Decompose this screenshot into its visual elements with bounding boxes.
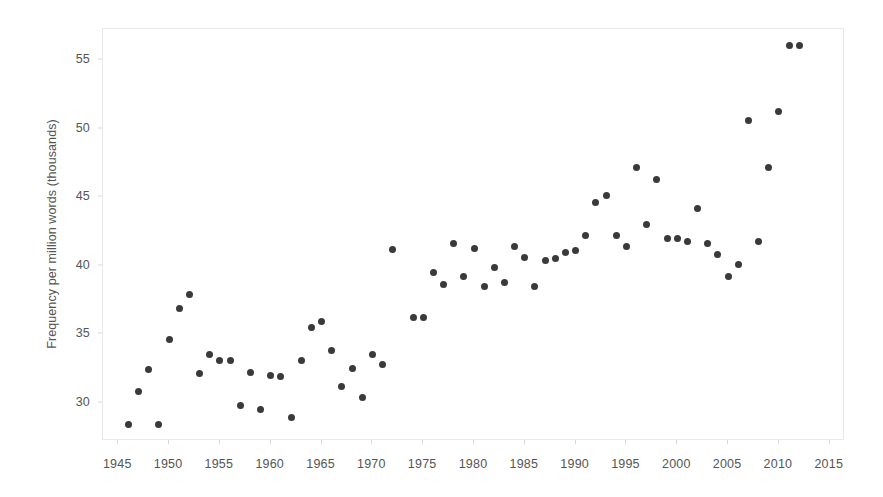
scatter-point <box>613 232 620 239</box>
scatter-point <box>196 370 203 377</box>
x-tick-mark <box>270 440 271 444</box>
scatter-point <box>379 361 386 368</box>
scatter-point <box>674 235 681 242</box>
scatter-point <box>420 314 427 321</box>
scatter-point <box>542 257 549 264</box>
scatter-point <box>735 261 742 268</box>
scatter-point <box>725 273 732 280</box>
scatter-point <box>592 199 599 206</box>
scatter-point <box>237 402 244 409</box>
scatter-point <box>440 281 447 288</box>
x-axis: 1945195019551960196519701975198019851990… <box>0 440 883 497</box>
x-tick-mark <box>524 440 525 444</box>
x-tick-mark <box>727 440 728 444</box>
scatter-point <box>572 247 579 254</box>
x-tick-mark <box>422 440 423 444</box>
x-tick-mark <box>778 440 779 444</box>
scatter-point <box>257 406 264 413</box>
scatter-point <box>186 291 193 298</box>
scatter-point <box>338 383 345 390</box>
scatter-point <box>328 347 335 354</box>
x-tick-mark <box>575 440 576 444</box>
scatter-point <box>450 240 457 247</box>
scatter-point <box>216 357 223 364</box>
scatter-point <box>775 108 782 115</box>
x-tick-label: 1980 <box>459 457 488 471</box>
scatter-point <box>318 318 325 325</box>
x-tick-mark <box>168 440 169 444</box>
scatter-point <box>359 394 366 401</box>
x-tick-label: 1970 <box>357 457 386 471</box>
x-tick-label: 1955 <box>205 457 234 471</box>
scatter-point <box>430 269 437 276</box>
scatter-points-layer <box>103 29 843 439</box>
x-tick-label: 1950 <box>154 457 183 471</box>
scatter-point <box>206 351 213 358</box>
x-tick-label: 2010 <box>764 457 793 471</box>
scatter-point <box>491 264 498 271</box>
scatter-point <box>664 235 671 242</box>
y-tick-label: 30 <box>76 395 90 409</box>
x-tick-label: 2000 <box>662 457 691 471</box>
scatter-point <box>308 324 315 331</box>
plot-area <box>102 28 844 440</box>
scatter-point <box>755 238 762 245</box>
scatter-point <box>765 164 772 171</box>
scatter-point <box>531 283 538 290</box>
scatter-point <box>582 232 589 239</box>
scatter-point <box>155 421 162 428</box>
y-tick-label: 55 <box>76 52 90 66</box>
scatter-point <box>369 351 376 358</box>
scatter-point <box>796 42 803 49</box>
scatter-point <box>227 357 234 364</box>
scatter-point <box>349 365 356 372</box>
scatter-chart-figure: Frequency per million words (thousands) … <box>0 0 883 497</box>
scatter-point <box>176 305 183 312</box>
scatter-point <box>603 192 610 199</box>
x-tick-mark <box>829 440 830 444</box>
y-tick-label: 40 <box>76 258 90 272</box>
scatter-point <box>471 245 478 252</box>
x-tick-label: 1960 <box>255 457 284 471</box>
scatter-point <box>552 255 559 262</box>
x-tick-mark <box>321 440 322 444</box>
scatter-point <box>501 279 508 286</box>
x-tick-mark <box>473 440 474 444</box>
scatter-point <box>694 205 701 212</box>
y-axis: 303540455055 <box>0 0 102 497</box>
y-tick-label: 35 <box>76 326 90 340</box>
scatter-point <box>135 388 142 395</box>
x-tick-label: 1975 <box>408 457 437 471</box>
x-tick-label: 1945 <box>103 457 132 471</box>
x-tick-label: 1965 <box>306 457 335 471</box>
scatter-point <box>460 273 467 280</box>
x-tick-label: 1990 <box>560 457 589 471</box>
scatter-point <box>521 254 528 261</box>
x-tick-mark <box>117 440 118 444</box>
x-tick-label: 2005 <box>713 457 742 471</box>
x-tick-label: 1985 <box>510 457 539 471</box>
x-tick-label: 2015 <box>814 457 843 471</box>
scatter-point <box>714 251 721 258</box>
scatter-point <box>125 421 132 428</box>
scatter-point <box>410 314 417 321</box>
scatter-point <box>277 373 284 380</box>
scatter-point <box>166 336 173 343</box>
scatter-point <box>298 357 305 364</box>
scatter-point <box>653 176 660 183</box>
scatter-point <box>623 243 630 250</box>
scatter-point <box>643 221 650 228</box>
scatter-point <box>247 369 254 376</box>
x-tick-mark <box>219 440 220 444</box>
scatter-point <box>745 117 752 124</box>
x-tick-mark <box>371 440 372 444</box>
x-tick-label: 1995 <box>611 457 640 471</box>
scatter-point <box>145 366 152 373</box>
scatter-point <box>389 246 396 253</box>
scatter-point <box>704 240 711 247</box>
scatter-point <box>633 164 640 171</box>
scatter-point <box>481 283 488 290</box>
x-tick-mark <box>676 440 677 444</box>
scatter-point <box>288 414 295 421</box>
scatter-point <box>267 372 274 379</box>
